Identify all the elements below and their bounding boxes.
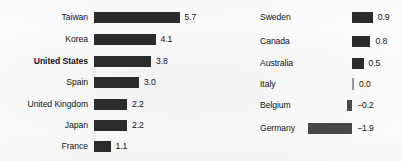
value-label-france: 1.1 [116,139,128,153]
value-label-united-states: 3.8 [156,54,168,68]
bar-taiwan [94,12,180,23]
category-label-australia: Australia [260,56,293,70]
chart-row: Belgium−0.2 [225,98,402,112]
value-label-australia: 0.5 [369,56,381,70]
bar-italy [352,78,354,90]
chart-row: Australia0.5 [225,56,402,70]
bar-australia [352,58,364,69]
bar-belgium [347,100,352,111]
chart-row: Canada0.8 [225,34,402,48]
value-label-germany: −1.9 [357,121,374,135]
value-label-japan: 2.2 [132,118,144,132]
chart-row: Korea4.1 [0,32,225,46]
category-label-italy: Italy [260,77,276,91]
chart-row: United Kingdom2.2 [0,97,225,111]
category-label-france: France [62,139,88,153]
category-label-sweden: Sweden [260,10,291,24]
chart-row: Italy0.0 [225,77,402,91]
chart-row: Spain3.0 [0,75,225,89]
chart-row: Japan2.2 [0,118,225,132]
value-label-spain: 3.0 [144,75,156,89]
chart-row: Germany−1.9 [225,121,402,135]
bar-united-states [94,56,151,67]
bar-france [94,141,111,152]
category-label-korea: Korea [65,32,88,46]
chart-row: Taiwan5.7 [0,10,225,24]
value-label-sweden: 0.9 [378,10,390,24]
bar-germany [308,123,352,134]
category-label-united-states: United States [34,54,88,68]
value-label-belgium: −0.2 [357,98,374,112]
chart-panel-left: Taiwan5.7Korea4.1United States3.8Spain3.… [0,0,225,161]
category-label-germany: Germany [260,121,295,135]
category-label-taiwan: Taiwan [62,10,88,24]
bar-canada [352,36,370,47]
bar-spain [94,77,139,88]
chart-row: Sweden0.9 [225,10,402,24]
value-label-taiwan: 5.7 [185,10,197,24]
chart-panel-right: Sweden0.9Canada0.8Australia0.5Italy0.0Be… [225,0,402,161]
value-label-italy: 0.0 [359,77,371,91]
chart-row: France1.1 [0,139,225,153]
value-label-canada: 0.8 [375,34,387,48]
category-label-united-kingdom: United Kingdom [28,97,88,111]
category-label-canada: Canada [260,34,290,48]
bar-sweden [352,12,373,23]
chart-row: United States3.8 [0,54,225,68]
category-label-spain: Spain [66,75,88,89]
category-label-japan: Japan [65,118,88,132]
bar-japan [94,120,127,131]
bar-united-kingdom [94,99,127,110]
value-label-united-kingdom: 2.2 [132,97,144,111]
grouped-bar-chart: Taiwan5.7Korea4.1United States3.8Spain3.… [0,0,402,161]
value-label-korea: 4.1 [161,32,173,46]
bar-korea [94,34,156,45]
category-label-belgium: Belgium [260,98,291,112]
